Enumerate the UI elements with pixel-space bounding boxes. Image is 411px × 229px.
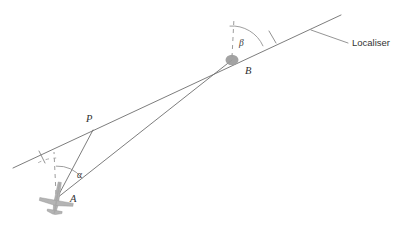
point-label-p: P [85, 113, 93, 124]
north-reference-at-b [232, 18, 234, 57]
angle-alpha-dashed-arc [38, 158, 56, 163]
geometry-canvas: A P B α β Localiser [0, 0, 411, 229]
localiser-callout-label: Localiser [352, 37, 390, 48]
angle-label-beta: β [238, 38, 244, 48]
point-label-a: A [69, 193, 77, 204]
localiser-centreline [13, 15, 341, 168]
segment-a-to-p [57, 130, 93, 198]
node-marker-b [226, 55, 239, 65]
angle-beta-arc [230, 26, 264, 46]
segment-a-to-b [57, 60, 232, 198]
tick-mark-centreline-left [39, 151, 45, 163]
tick-mark-centreline-right [269, 31, 276, 43]
localiser-leader-line [311, 30, 348, 43]
point-label-b: B [245, 65, 252, 76]
localiser-diagram-root: A P B α β Localiser [0, 0, 411, 229]
